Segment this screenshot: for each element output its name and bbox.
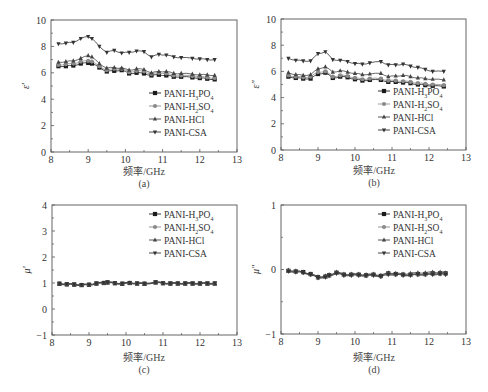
legend-label: PANI-H3PO4 — [164, 210, 213, 222]
x-tick-label: 8 — [49, 154, 54, 165]
y-tick-label: 3 — [42, 226, 47, 237]
legend-label: PANI-HCl — [164, 236, 205, 246]
y-tick-label: 10 — [36, 15, 46, 26]
x-tick-label: 13 — [232, 154, 242, 165]
x-tick-label: 13 — [461, 152, 471, 163]
panel-c-xlabel: 频率/GHz — [104, 349, 184, 364]
x-tick-label: 12 — [195, 154, 205, 165]
y-tick-label: 4 — [41, 94, 46, 105]
legend-label: PANI-H2SO4 — [164, 102, 213, 114]
x-tick-label: 13 — [232, 337, 242, 348]
y-tick-label: 10 — [266, 14, 276, 25]
x-tick-label: 9 — [316, 336, 321, 347]
y-tick-label: 4 — [42, 200, 47, 211]
legend: PANI-H3PO4PANI-H2SO4PANI-HClPANI-CSA — [149, 89, 213, 138]
x-tick-label: 9 — [87, 337, 92, 348]
chart-panel-a: 89101112130246810ε′PANI-H3PO4PANI-H2SO4P… — [0, 0, 488, 392]
x-tick-label: 8 — [279, 336, 284, 347]
y-tick-label: 0 — [271, 264, 276, 275]
x-tick-label: 10 — [350, 336, 360, 347]
legend-label: PANI-H2SO4 — [393, 100, 442, 112]
y-tick-label: 2 — [271, 118, 276, 129]
y-tick-label: 2 — [42, 252, 47, 263]
legend-label: PANI-H2SO4 — [393, 223, 442, 235]
legend: PANI-H3PO4PANI-H2SO4PANI-HClPANI-CSA — [378, 210, 442, 259]
x-tick-label: 13 — [461, 336, 471, 347]
chart-b: 89101112130246810ε″PANI-H3PO4PANI-H2SO4P… — [250, 14, 471, 164]
chart-a: 89101112130246810ε′PANI-H3PO4PANI-H2SO4P… — [20, 15, 242, 166]
legend-label: PANI-H3PO4 — [393, 87, 442, 99]
legend-label: PANI-HCl — [393, 236, 434, 246]
x-tick-label: 11 — [158, 337, 168, 348]
legend: PANI-H3PO4PANI-H2SO4PANI-HClPANI-CSA — [378, 87, 442, 136]
legend: PANI-H3PO4PANI-H2SO4PANI-HClPANI-CSA — [149, 210, 213, 259]
y-tick-label: 0 — [42, 304, 47, 315]
panel-b-xlabel: 频率/GHz — [334, 162, 414, 177]
x-tick-label: 8 — [279, 152, 284, 163]
y-tick-label: −1 — [265, 329, 276, 340]
legend-label: PANI-CSA — [164, 128, 207, 138]
y-tick-label: 6 — [41, 67, 46, 78]
y-tick-label: −1 — [36, 330, 47, 341]
series-pani-csa — [286, 270, 447, 281]
chart-d: 8910111213−101μ″PANI-H3PO4PANI-H2SO4PANI… — [250, 200, 471, 348]
panel-b-label: (b) — [359, 177, 389, 188]
panel-c-label: (c) — [129, 364, 159, 375]
x-tick-label: 12 — [424, 152, 434, 163]
legend-label: PANI-H3PO4 — [393, 210, 442, 222]
panel-a-xlabel: 频率/GHz — [104, 163, 184, 178]
legend-label: PANI-H3PO4 — [164, 89, 213, 101]
y-tick-label: 1 — [271, 200, 276, 211]
y-tick-label: 8 — [41, 41, 46, 52]
x-tick-label: 10 — [121, 337, 131, 348]
x-tick-label: 12 — [195, 337, 205, 348]
x-tick-label: 9 — [86, 154, 91, 165]
y-tick-label: 0 — [271, 145, 276, 156]
y-tick-label: 2 — [41, 120, 46, 131]
y-axis-label: μ″ — [250, 264, 261, 275]
x-tick-label: 9 — [316, 152, 321, 163]
legend-label: PANI-CSA — [393, 126, 436, 136]
y-tick-label: 6 — [271, 66, 276, 77]
panel-d-xlabel: 频率/GHz — [334, 349, 414, 364]
legend-label: PANI-HCl — [164, 115, 205, 125]
legend-label: PANI-CSA — [393, 249, 436, 259]
series-pani-csa — [286, 50, 446, 74]
x-tick-label: 12 — [424, 336, 434, 347]
y-tick-label: 4 — [271, 92, 276, 103]
y-tick-label: 1 — [42, 278, 47, 289]
x-tick-label: 8 — [50, 337, 55, 348]
legend-label: PANI-HCl — [393, 113, 434, 123]
y-tick-label: 8 — [271, 40, 276, 51]
y-tick-label: 0 — [41, 147, 46, 158]
y-axis-label: μ′ — [21, 266, 32, 275]
panel-d-label: (d) — [359, 364, 389, 375]
panel-a-label: (a) — [129, 178, 159, 189]
x-tick-label: 11 — [387, 336, 397, 347]
y-axis-label: ε″ — [250, 80, 261, 89]
chart-c: 8910111213−101234μ′PANI-H3PO4PANI-H2SO4P… — [21, 200, 242, 349]
y-axis-label: ε′ — [20, 82, 31, 89]
legend-label: PANI-H2SO4 — [164, 223, 213, 235]
legend-label: PANI-CSA — [164, 249, 207, 259]
